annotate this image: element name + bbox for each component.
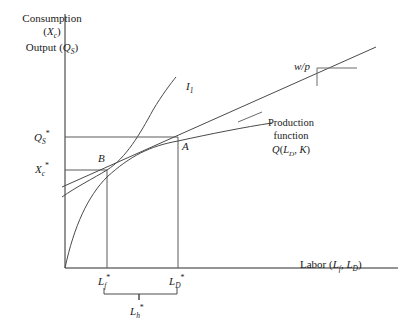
y-axis-title-line2: (Xc) [8,25,96,41]
point-label-b: B [98,152,105,165]
figure-canvas: Consumption (Xc) Output (QS) Labor (Lf, … [0,0,407,322]
wage-slope-label: w/p [294,60,310,73]
point-label-a: A [182,140,189,153]
y-tick-label-output: QS* [34,129,50,147]
production-function-label-line2: function [243,129,339,142]
y-axis-title-line1: Consumption [8,12,96,25]
x-tick-label-labor-demand: LD* [169,273,184,291]
x-axis-title: Labor (Lf, LD) [300,258,362,274]
production-function-label-line1: Production [243,116,339,129]
y-axis-title: Consumption (Xc) Output (QS) [8,12,96,57]
y-tick-label-consumption: Xc* [35,161,49,179]
consumption-symbol: X [47,25,54,37]
x-tick-label-labor-supply: Lf* [98,273,110,291]
brace-label-labor-hours: Lh* [130,303,144,321]
y-axis-title-line3: Output (QS) [8,41,96,57]
production-function-label-line3: Q(LD, K) [243,143,339,159]
production-function-curve [65,123,272,268]
output-symbol: Q [63,41,71,53]
production-function-label: Production function Q(LD, K) [243,116,339,159]
labor-hours-brace [104,288,177,300]
indifference-curve-label: I1 [186,80,193,96]
